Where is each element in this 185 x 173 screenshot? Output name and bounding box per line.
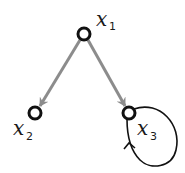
svg-text:3: 3 [150, 130, 157, 143]
edge-x1-x3 [88, 40, 125, 106]
node-x2 [29, 107, 41, 119]
svg-text:2: 2 [26, 130, 33, 143]
svg-text:x: x [137, 116, 148, 140]
label-x1: x 1 [96, 7, 116, 33]
svg-text:x: x [96, 7, 107, 31]
edge-x1-x2 [40, 40, 80, 106]
svg-text:1: 1 [109, 20, 116, 33]
label-x3: x 3 [137, 116, 157, 143]
label-x2: x 2 [13, 116, 33, 143]
graph-canvas: x 1 x 2 x 3 [0, 0, 185, 173]
node-x1 [78, 28, 90, 40]
svg-text:x: x [13, 116, 24, 140]
loop-arrowhead-icon [124, 143, 135, 149]
node-x3 [123, 107, 135, 119]
